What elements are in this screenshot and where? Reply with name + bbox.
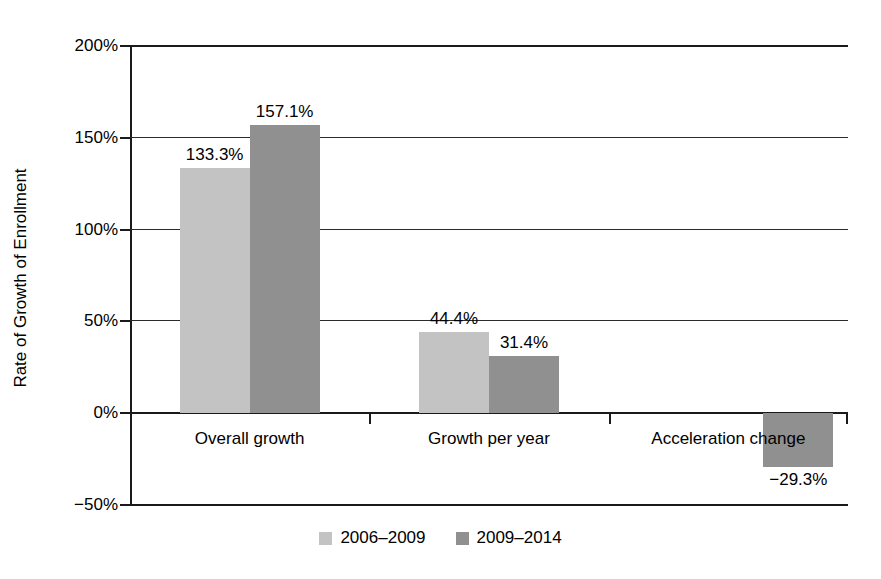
y-tick-mark-150: [120, 137, 130, 139]
bar-value-label-series2-group1: 157.1%: [230, 103, 340, 121]
x-category-label-3: Acceleration change: [609, 430, 848, 448]
bar-value-label-series2-group3: −29.3%: [743, 471, 853, 489]
y-axis-tick-labels: 200%150%100%50%0%−50%: [0, 46, 118, 505]
y-tick-label--50: −50%: [8, 496, 118, 513]
bar-value-label-series2-group2: 31.4%: [469, 334, 579, 352]
legend-item-2[interactable]: 2009–2014: [456, 529, 562, 547]
x-tick-mark-start: [130, 413, 132, 424]
y-tick-mark-100: [120, 229, 130, 231]
chart-figure: Rate of Growth of Enrollment 200%150%100…: [0, 0, 881, 579]
legend-item-label-1: 2006–2009: [340, 529, 425, 547]
y-tick-mark-200: [120, 45, 130, 47]
bar-value-label-series1-group2: 44.4%: [399, 310, 509, 328]
y-tick-label-100: 100%: [8, 221, 118, 238]
chart-legend: 2006–20092009–2014: [0, 529, 881, 547]
y-tick-label-50: 50%: [8, 312, 118, 329]
dark-gray-swatch: [456, 532, 469, 545]
bar-series2-group2: [489, 356, 559, 414]
y-tick-label-150: 150%: [8, 129, 118, 146]
legend-item-1[interactable]: 2006–2009: [319, 529, 425, 547]
x-tick-mark-end: [846, 413, 848, 424]
y-tick-mark--50: [120, 504, 130, 506]
y-tick-mark-50: [120, 320, 130, 322]
y-tick-mark-0: [120, 412, 130, 414]
bars-layer: 133.3%157.1%Overall growth44.4%31.4%Grow…: [130, 46, 848, 505]
y-tick-label-0: 0%: [8, 404, 118, 421]
x-category-label-1: Overall growth: [130, 430, 369, 448]
y-tick-label-200: 200%: [8, 37, 118, 54]
x-tick-mark-1: [369, 413, 371, 424]
light-gray-swatch: [319, 532, 332, 545]
bar-series1-group1: [180, 168, 250, 413]
legend-item-label-2: 2009–2014: [477, 529, 562, 547]
bar-series2-group1: [250, 125, 320, 413]
x-category-label-2: Growth per year: [369, 430, 608, 448]
x-tick-mark-2: [609, 413, 611, 424]
